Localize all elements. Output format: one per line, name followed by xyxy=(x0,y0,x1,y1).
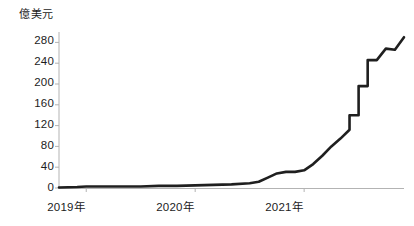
data-series-line xyxy=(59,37,404,187)
chart-container: 億美元 280 240 200 160 120 80 40 0 2019年 20… xyxy=(0,0,414,226)
y-tick-marks xyxy=(55,42,59,188)
chart-plot-area xyxy=(0,0,414,226)
